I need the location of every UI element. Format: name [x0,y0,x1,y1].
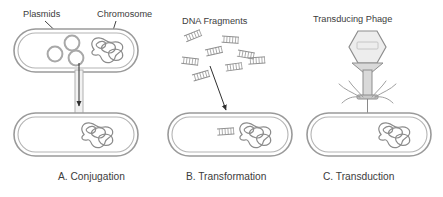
recipient-cell-conjugation [14,113,138,156]
label-dna-fragments: DNA Fragments [182,16,248,26]
dna-fragment [248,57,265,64]
recipient-cell-transduction [307,113,431,156]
cell-wall [14,113,138,156]
caption-conjugation: A. Conjugation [58,171,125,182]
gene-transfer-diagram: Plasmids Chromosome [0,0,443,197]
plasmid-ring [65,36,80,51]
dna-fragment [225,63,243,72]
panel-transduction: Transducing Phage C. Transducti [307,14,431,182]
cell-wall [307,113,431,156]
dna-fragment [184,30,202,42]
figure-root: Plasmids Chromosome [0,0,443,197]
dna-fragment [222,36,239,43]
label-chromosome: Chromosome [97,9,152,19]
label-plasmids: Plasmids [23,9,61,19]
donor-cell-conjugation [14,29,138,72]
recipient-cell-transformation [168,113,292,156]
plasmid-ring [48,47,63,62]
phage-head [349,31,386,63]
bacteriophage [339,31,396,122]
plasmid-ring [69,51,84,66]
label-transducing-phage: Transducing Phage [313,14,392,24]
dna-fragment [205,46,223,56]
free-dna-fragments [181,30,265,81]
phage-tail [363,70,372,97]
panel-transformation: DNA Fragments B. Transformation [168,16,292,182]
caption-transduction: C. Transduction [323,171,394,182]
transfer-arrow-transformation [210,66,226,110]
panel-conjugation: Plasmids Chromosome [14,9,152,182]
dna-fragment [181,57,199,65]
caption-transformation: B. Transformation [186,171,266,182]
dna-fragment [192,70,210,81]
